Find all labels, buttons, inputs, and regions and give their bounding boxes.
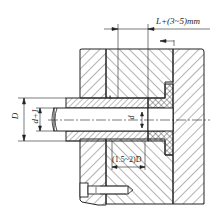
rod bbox=[52, 108, 148, 131]
label-rod-diameter: d bbox=[127, 116, 136, 120]
label-inner-diameter: d+1 bbox=[30, 108, 40, 123]
label-length-ratio: (1.5~2)D bbox=[112, 155, 141, 164]
right-plate bbox=[173, 49, 204, 204]
label-outer-diameter: D bbox=[10, 113, 20, 120]
label-top-clearance: L+(3~5)mm bbox=[156, 16, 200, 26]
